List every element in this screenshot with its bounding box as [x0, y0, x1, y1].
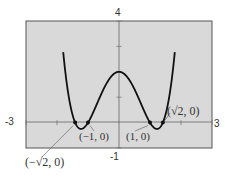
- x-min-tick-label: -3: [5, 117, 14, 127]
- zero-point-marker: [73, 121, 77, 125]
- x-max-tick-label: 3: [214, 119, 220, 129]
- zero-point-marker: [86, 121, 90, 125]
- y-min-tick-label: -1: [110, 152, 119, 162]
- zero-point-marker: [161, 121, 165, 125]
- point-label-pos-1: (1, 0): [126, 131, 150, 142]
- point-label-pos-sqrt2: (√2, 0): [167, 105, 200, 117]
- point-label-neg-sqrt2: (−√2, 0): [25, 156, 64, 168]
- point-label-neg-1: (−1, 0): [79, 131, 109, 142]
- zero-point-marker: [148, 121, 152, 125]
- y-max-tick-label: 4: [115, 8, 121, 18]
